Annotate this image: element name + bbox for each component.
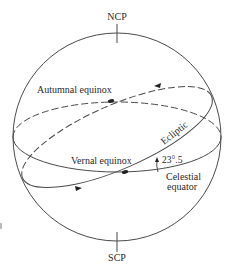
scp-label: SCP bbox=[108, 252, 126, 263]
autumnal-equinox-point bbox=[107, 98, 114, 103]
celestial-equator-label-line2: equator bbox=[167, 181, 198, 192]
ecliptic-arrow-back bbox=[154, 83, 161, 88]
ecliptic-arrow-front bbox=[75, 186, 82, 191]
ncp-label: NCP bbox=[107, 11, 127, 22]
obliquity-label: 23°.5 bbox=[162, 155, 183, 165]
obliquity-arrow-icon bbox=[155, 157, 159, 162]
celestial-sphere-diagram: NCP SCP Autumnal equinox Vernal equinox … bbox=[0, 0, 229, 268]
edge-mark bbox=[0, 223, 2, 229]
vernal-equinox-point bbox=[121, 169, 128, 174]
autumnal-equinox-label: Autumnal equinox bbox=[37, 84, 112, 95]
sphere-outline bbox=[13, 33, 221, 241]
vernal-equinox-label: Vernal equinox bbox=[71, 155, 132, 166]
